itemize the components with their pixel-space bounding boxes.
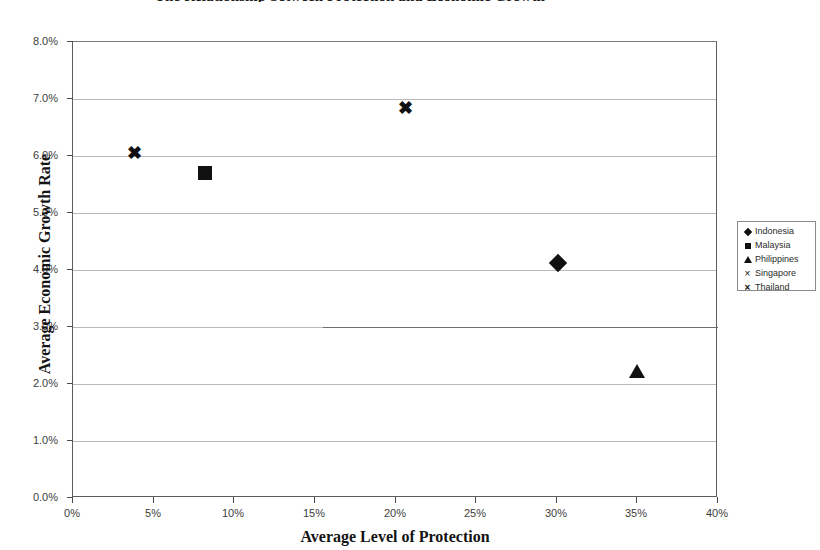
x-axis-tick-label: 40% — [692, 508, 742, 519]
triangle-icon — [741, 253, 754, 266]
gridline — [73, 270, 716, 271]
chart-title: The Relationship between Protection and … — [40, 0, 660, 2]
x-axis-tick — [72, 497, 73, 503]
x-axis-tick-label: 5% — [128, 508, 178, 519]
x-axis-tick-label: 10% — [208, 508, 258, 519]
legend-item-malaysia[interactable]: Malaysia — [741, 239, 813, 252]
cross-bold-icon: × — [741, 281, 754, 294]
data-point-indonesia — [549, 253, 567, 271]
plot-area: ✖✖ — [72, 41, 717, 497]
data-point-singapore: ✖ — [398, 99, 413, 117]
x-axis-tick-label: 15% — [289, 508, 339, 519]
gridline — [73, 156, 716, 157]
y-axis-tick — [67, 41, 73, 42]
scatter-chart: The Relationship between Protection and … — [0, 0, 820, 550]
x-axis-tick — [153, 497, 154, 503]
legend-item-singapore[interactable]: ×Singapore — [741, 267, 813, 280]
x-axis-tick — [475, 497, 476, 503]
x-axis-tick-label: 0% — [47, 508, 97, 519]
y-axis-title: Average Economic Growth Rate — [36, 99, 54, 429]
y-axis-tick — [67, 155, 73, 156]
legend-item-indonesia[interactable]: Indonesia — [741, 225, 813, 238]
data-point-philippines — [629, 364, 645, 378]
legend-item-philippines[interactable]: Philippines — [741, 253, 813, 266]
y-axis-tick — [67, 269, 73, 270]
data-point-malaysia — [198, 166, 212, 180]
chart-legend: IndonesiaMalaysiaPhilippines×Singapore×T… — [737, 221, 816, 291]
gridline — [73, 99, 716, 100]
gridline — [73, 213, 716, 214]
x-axis-tick — [636, 497, 637, 503]
x-axis-tick-label: 30% — [531, 508, 581, 519]
cross-icon: × — [741, 267, 754, 280]
x-axis-tick — [233, 497, 234, 503]
x-axis-tick-label: 35% — [611, 508, 661, 519]
x-axis-tick-label: 25% — [450, 508, 500, 519]
gridline — [73, 384, 716, 385]
data-point-thailand: ✖ — [127, 144, 142, 162]
y-axis-tick-label: 8.0% — [10, 36, 58, 47]
stray-rule-segment — [323, 327, 718, 328]
legend-label: Philippines — [754, 255, 799, 264]
y-axis-tick-label: 0.0% — [10, 492, 58, 503]
diamond-icon — [741, 225, 754, 238]
x-axis-tick-label: 20% — [370, 508, 420, 519]
y-axis-tick — [67, 98, 73, 99]
legend-label: Thailand — [754, 283, 790, 292]
legend-label: Malaysia — [754, 241, 791, 250]
legend-item-thailand[interactable]: ×Thailand — [741, 281, 813, 294]
gridline — [73, 441, 716, 442]
legend-label: Indonesia — [754, 227, 794, 236]
y-axis-tick — [67, 212, 73, 213]
legend-label: Singapore — [754, 269, 796, 278]
x-axis-title: Average Level of Protection — [110, 528, 680, 546]
x-axis-tick — [556, 497, 557, 503]
x-axis-tick — [395, 497, 396, 503]
y-axis-tick — [67, 326, 73, 327]
y-axis-tick-label: 1.0% — [10, 435, 58, 446]
y-axis-tick — [67, 383, 73, 384]
x-axis-tick — [314, 497, 315, 503]
x-axis-tick — [717, 497, 718, 503]
square-icon — [741, 239, 754, 252]
y-axis-tick — [67, 440, 73, 441]
